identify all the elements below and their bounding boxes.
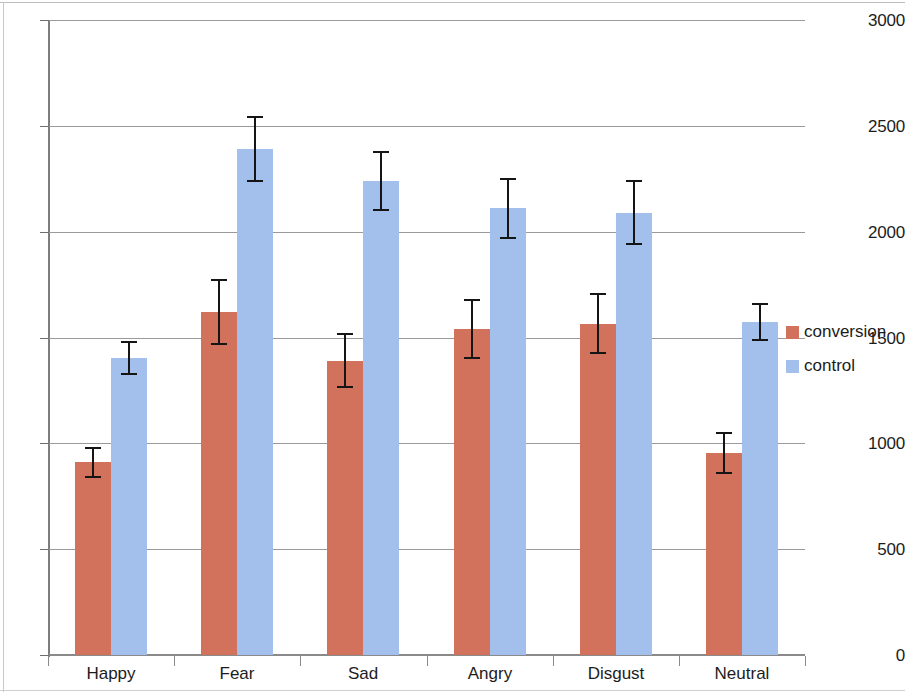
bar-disgust-control — [616, 213, 652, 655]
legend-swatch-conversion — [786, 326, 799, 339]
x-tick-mark — [805, 656, 806, 666]
error-bar-disgust-control — [633, 180, 635, 246]
page-border-top — [0, 2, 905, 3]
error-bar-neutral-conversion — [723, 432, 725, 474]
error-bar-cap-upper — [337, 333, 353, 335]
error-bar-cap-lower — [500, 237, 516, 239]
error-bar-cap-upper — [590, 293, 606, 295]
page-border-bottom — [0, 690, 905, 691]
y-tick-label: 500 — [861, 541, 905, 558]
error-bar-cap-lower — [590, 352, 606, 354]
error-bar-cap-lower — [211, 343, 227, 345]
legend-swatch-control — [786, 360, 799, 373]
y-tick-label: 1000 — [861, 435, 905, 452]
chart-legend: conversioncontrol — [786, 315, 904, 383]
bar-angry-control — [490, 208, 526, 655]
error-bar-disgust-conversion — [597, 293, 599, 354]
bar-sad-conversion — [327, 361, 363, 655]
error-bar-cap-lower — [752, 339, 768, 341]
error-bar-cap-lower — [464, 357, 480, 359]
bar-neutral-control — [742, 322, 778, 655]
x-tick-label-neutral: Neutral — [679, 664, 805, 684]
bar-happy-conversion — [75, 462, 111, 655]
x-tick-label-happy: Happy — [48, 664, 174, 684]
error-bar-fear-control — [254, 116, 256, 182]
error-bar-cap-lower — [121, 373, 137, 375]
y-tick-label: 2500 — [861, 118, 905, 135]
error-bar-cap-upper — [373, 151, 389, 153]
error-bar-happy-conversion — [92, 447, 94, 479]
bar-fear-control — [237, 149, 273, 655]
y-tick-label: 2000 — [861, 224, 905, 241]
error-bar-cap-upper — [716, 432, 732, 434]
error-bar-angry-conversion — [471, 299, 473, 358]
plot-area — [48, 20, 805, 655]
y-tick-label: 0 — [861, 647, 905, 664]
error-bar-cap-upper — [500, 178, 516, 180]
error-bar-cap-lower — [626, 243, 642, 245]
error-bar-cap-lower — [337, 386, 353, 388]
error-bar-cap-upper — [85, 447, 101, 449]
page-border-left — [3, 2, 4, 692]
bar-happy-control — [111, 358, 147, 655]
error-bar-cap-upper — [121, 341, 137, 343]
x-tick-label-fear: Fear — [174, 664, 300, 684]
error-bar-cap-upper — [211, 279, 227, 281]
error-bar-cap-lower — [85, 476, 101, 478]
y-tick-label: 3000 — [861, 12, 905, 29]
error-bar-sad-conversion — [344, 333, 346, 388]
error-bar-sad-control — [380, 151, 382, 210]
error-bar-cap-upper — [626, 180, 642, 182]
error-bar-cap-upper — [752, 303, 768, 305]
legend-item-control[interactable]: control — [786, 349, 904, 383]
x-tick-label-sad: Sad — [300, 664, 426, 684]
error-bar-cap-upper — [464, 299, 480, 301]
bar-sad-control — [363, 181, 399, 655]
error-bar-cap-lower — [373, 209, 389, 211]
error-bar-fear-conversion — [218, 279, 220, 345]
error-bar-angry-control — [507, 178, 509, 239]
error-bar-cap-lower — [716, 472, 732, 474]
bar-angry-conversion — [454, 329, 490, 655]
legend-label-control: control — [804, 356, 855, 376]
error-bar-neutral-control — [759, 303, 761, 341]
bar-chart: 050010001500200025003000 HappyFearSadAng… — [0, 0, 905, 695]
legend-label-conversion: conversion — [804, 322, 886, 342]
error-bar-cap-upper — [247, 116, 263, 118]
x-tick-label-disgust: Disgust — [553, 664, 679, 684]
legend-item-conversion[interactable]: conversion — [786, 315, 904, 349]
bar-disgust-conversion — [580, 324, 616, 655]
error-bar-happy-control — [128, 341, 130, 375]
error-bar-cap-lower — [247, 180, 263, 182]
bar-fear-conversion — [201, 312, 237, 655]
x-tick-label-angry: Angry — [427, 664, 553, 684]
bar-neutral-conversion — [706, 453, 742, 655]
